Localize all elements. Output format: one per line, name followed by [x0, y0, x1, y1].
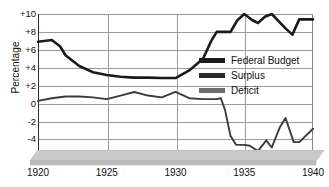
- legend-item[interactable]: Federal Budget: [199, 54, 299, 67]
- x-axis-tick-labels: 19201925193019351940: [0, 167, 324, 183]
- x-axis-tick-label: 1925: [87, 167, 127, 179]
- legend-swatch-icon: [199, 58, 225, 63]
- x-axis-tick-label: 1935: [224, 167, 264, 179]
- legend-swatch-icon: [199, 73, 225, 78]
- x-axis-tick-label: 1920: [18, 167, 58, 179]
- base-plate-face: [30, 161, 316, 165]
- legend-swatch-icon: [199, 88, 225, 93]
- y-axis-tick-label: +6: [10, 45, 36, 55]
- y-axis-tick-label: -4: [10, 134, 36, 144]
- series-line-surplus-deficit: [38, 92, 313, 151]
- base-plate-top: [30, 150, 324, 161]
- x-axis-tick-label: 1940: [293, 167, 329, 179]
- y-axis-tick-label: +2: [10, 81, 36, 91]
- base-plate: [30, 150, 324, 166]
- y-axis-tick-label: +8: [10, 27, 36, 37]
- y-axis-tick-label: 0: [10, 99, 36, 109]
- legend-item-label: Federal Budget: [231, 55, 299, 66]
- y-axis-tick-label: -2: [10, 117, 36, 127]
- legend-item[interactable]: Deficit: [199, 84, 299, 97]
- y-axis-tick-label: +4: [10, 63, 36, 73]
- legend-item-label: Surplus: [231, 70, 265, 81]
- legend-item-label: Deficit: [231, 85, 259, 96]
- x-axis-tick-label: 1930: [156, 167, 196, 179]
- legend-item[interactable]: Surplus: [199, 69, 299, 82]
- chart-legend: Federal BudgetSurplusDeficit: [199, 54, 299, 99]
- y-axis-tick-label: +10: [10, 9, 36, 19]
